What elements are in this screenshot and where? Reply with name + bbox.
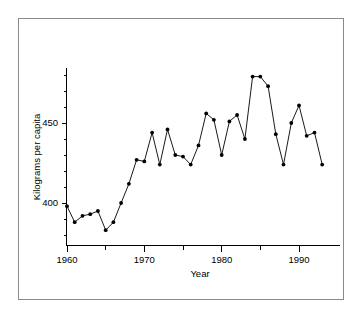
series-line [67,77,322,231]
data-point [204,112,208,116]
data-point [320,163,324,167]
data-point [104,228,108,232]
data-point [181,155,185,159]
x-tick-label: 1990 [288,254,309,265]
data-point [289,121,293,125]
data-point [73,220,77,224]
x-axis-tick-labels: 1960197019801990 [56,254,309,265]
x-tick-label: 1980 [211,254,232,265]
x-axis-title: Year [190,268,209,279]
x-tick-label: 1970 [134,254,155,265]
line-chart: 400450 Kilograms per capita 196019701980… [0,0,364,319]
y-axis-tick-labels: 400450 [42,117,58,208]
data-point [166,127,170,131]
data-point [266,84,270,88]
data-point [127,182,131,186]
data-point [150,131,154,135]
data-point [243,137,247,141]
data-point [65,204,69,208]
data-point [119,201,123,205]
data-point [251,75,255,79]
data-point [258,75,262,79]
y-axis-title: Kilograms per capita [31,113,42,200]
data-point [81,214,85,218]
data-point [220,153,224,157]
data-series [65,75,324,232]
data-point [282,163,286,167]
y-tick-label: 400 [42,197,58,208]
data-point [158,163,162,167]
data-point [297,104,301,108]
data-point [274,132,278,136]
y-axis-ticks [62,75,67,235]
data-point [173,153,177,157]
data-point [88,212,92,216]
y-axis: 400450 Kilograms per capita [31,68,67,246]
data-point [228,120,232,124]
data-point [212,118,216,122]
data-point [305,134,309,138]
x-axis: 1960197019801990 Year [56,246,340,280]
data-point [313,131,317,135]
x-tick-label: 1960 [56,254,77,265]
data-point [96,209,100,213]
data-point [197,144,201,148]
data-point [235,113,239,117]
x-axis-ticks [67,246,299,252]
data-point [112,220,116,224]
data-point [135,158,139,162]
data-point [189,163,193,167]
y-tick-label: 450 [42,117,58,128]
data-point [142,160,146,164]
